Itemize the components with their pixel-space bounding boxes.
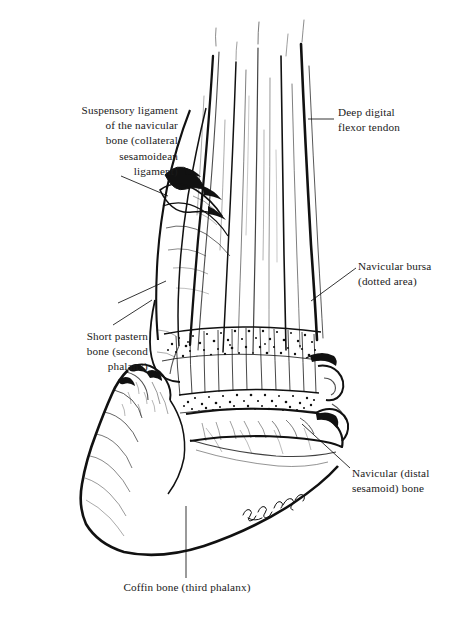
navicular-bursa-band-upper: [162, 327, 321, 361]
label-short-pastern-bone: Short pastern bone (second phalanx): [8, 329, 148, 375]
artist-signature: [243, 495, 305, 521]
label-coffin-bone: Coffin bone (third phalanx): [60, 580, 314, 595]
short-pastern-bone: [150, 300, 180, 382]
leader-suspensory-lower: [118, 281, 166, 303]
label-suspensory-ligament: Suspensory ligament of the navicular bon…: [8, 103, 178, 179]
deep-digital-flexor-tendon: [190, 44, 323, 352]
tendon-top-wisps: [216, 20, 305, 60]
bursa-hatching: [176, 328, 316, 396]
label-navicular-bone: Navicular (distal sesamoid) bone: [352, 466, 458, 496]
leader-short-pastern: [113, 300, 152, 325]
coffin-bone: [81, 364, 338, 555]
label-navicular-bursa: Navicular bursa (dotted area): [358, 259, 458, 289]
illustration-page: Suspensory ligament of the navicular bon…: [0, 0, 458, 632]
navicular-shading: [310, 353, 338, 428]
hoof-anatomy-figure: [0, 0, 458, 632]
leader-navicular-bursa: [311, 268, 356, 301]
coffin-bone-texture: [122, 382, 155, 416]
label-deep-digital-flexor-tendon: Deep digital flexor tendon: [338, 105, 454, 135]
